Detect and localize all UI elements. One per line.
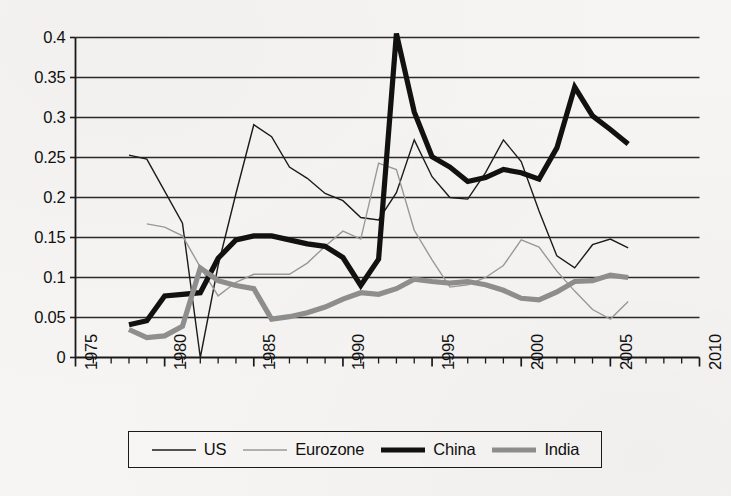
legend-swatch-eurozone xyxy=(242,444,288,456)
legend-swatch-india xyxy=(491,444,537,456)
x-major-ticks-group xyxy=(76,358,700,367)
x-tick-label-1990: 1990 xyxy=(349,334,368,370)
legend-label-china: China xyxy=(433,440,475,459)
y-tick-label-0.4: 0.4 xyxy=(43,28,65,47)
y-tick-label-0.1: 0.1 xyxy=(43,268,65,287)
series-line-eurozone xyxy=(147,163,628,319)
chart-legend: USEurozoneChinaIndia xyxy=(128,431,602,468)
x-tick-label-1995: 1995 xyxy=(439,334,458,370)
y-tick-label-0.35: 0.35 xyxy=(34,68,65,87)
figure-container: 00.050.10.150.20.250.30.350.4 1975198019… xyxy=(0,0,731,496)
y-tick-label-0.15: 0.15 xyxy=(34,228,65,247)
legend-label-eurozone: Eurozone xyxy=(295,440,364,459)
x-tick-label-1985: 1985 xyxy=(260,334,279,370)
legend-entry-eurozone[interactable]: Eurozone xyxy=(234,440,372,459)
y-tick-label-0.05: 0.05 xyxy=(34,308,65,327)
legend-label-us: US xyxy=(204,440,227,459)
legend-swatch-us xyxy=(151,444,197,456)
legend-swatch-china xyxy=(380,444,426,456)
x-tick-label-2010: 2010 xyxy=(706,334,725,370)
y-tick-label-0.25: 0.25 xyxy=(34,148,65,167)
y-tick-label-0: 0 xyxy=(57,348,66,367)
legend-entry-china[interactable]: China xyxy=(372,440,483,459)
legend-entry-us[interactable]: US xyxy=(143,440,235,459)
x-tick-label-1980: 1980 xyxy=(171,334,190,370)
x-tick-label-2000: 2000 xyxy=(528,334,547,370)
data-series-group xyxy=(129,34,628,358)
legend-entry-india[interactable]: India xyxy=(483,440,587,459)
y-tick-label-0.2: 0.2 xyxy=(43,188,65,207)
x-tick-label-1975: 1975 xyxy=(82,334,101,370)
y-tick-label-0.3: 0.3 xyxy=(43,108,65,127)
legend-label-india: India xyxy=(544,440,579,459)
x-tick-label-2005: 2005 xyxy=(617,334,636,370)
series-line-india xyxy=(129,268,628,338)
line-chart-plot xyxy=(0,0,731,496)
